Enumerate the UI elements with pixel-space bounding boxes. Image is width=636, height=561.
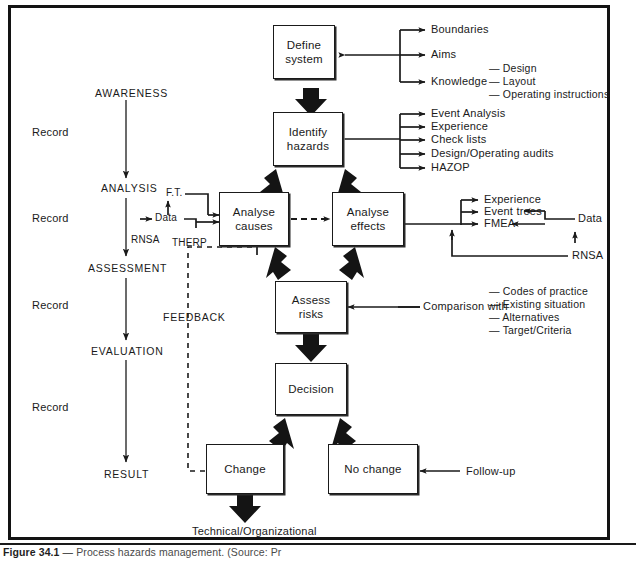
input-experience: Experience (431, 120, 488, 133)
node-analyse-causes[interactable]: Analyse causes (219, 192, 289, 246)
input-ft: F.T. (166, 187, 182, 199)
node-identify-hazards[interactable]: Identify hazards (273, 112, 343, 166)
input-fmea: FMEA (484, 217, 515, 230)
node-no-change[interactable]: No change (328, 444, 418, 494)
figure-caption-dash: — (63, 546, 74, 558)
block-arrow-assess-to-decision (295, 334, 327, 362)
node-analyse-effects[interactable]: Analyse effects (332, 192, 404, 246)
record-label-2: Record (32, 212, 69, 225)
input-check-lists: Check lists (431, 133, 486, 146)
caption-rule (0, 543, 636, 545)
figure-caption-text: Process hazards management. (Source: Pr (76, 546, 281, 558)
stage-analysis: ANALYSIS (101, 182, 158, 195)
comparison-item-target-criteria: — Target/Criteria (489, 324, 572, 337)
input-design-operating-audits: Design/Operating audits (431, 147, 554, 160)
input-event-analysis: Event Analysis (431, 107, 505, 120)
node-analyse-causes-label: Analyse causes (233, 205, 275, 234)
stage-result: RESULT (104, 468, 149, 481)
define-system-input-bracket (345, 30, 425, 82)
block-arrow-causes-to-assess (266, 247, 291, 280)
outcome-technical-organizational: Technical/Organizational (192, 525, 317, 538)
node-change[interactable]: Change (206, 444, 284, 494)
record-label-4: Record (32, 401, 69, 414)
input-boundaries: Boundaries (431, 23, 489, 36)
feedback-dashed-loop (188, 247, 257, 471)
input-hazop: HAZOP (431, 161, 470, 174)
knowledge-sub-design: — Design (489, 62, 537, 75)
record-label-3: Record (32, 299, 69, 312)
knowledge-sub-layout: — Layout (489, 75, 536, 88)
identify-hazards-input-bracket (345, 114, 425, 168)
comparison-item-alternatives: — Alternatives (489, 311, 560, 324)
follow-up-label: Follow-up (466, 465, 516, 478)
block-arrow-effects-to-assess (339, 247, 364, 280)
input-knowledge: Knowledge (431, 75, 487, 88)
node-analyse-effects-label: Analyse effects (347, 205, 389, 234)
input-therp: THERP (172, 237, 207, 249)
feedback-label: FEEDBACK (163, 311, 226, 324)
input-data-effects: Data (578, 212, 602, 225)
node-decision[interactable]: Decision (275, 363, 347, 415)
input-rnsa-effects: RNSA (572, 249, 603, 262)
stage-evaluation: EVALUATION (91, 345, 163, 358)
record-label-1: Record (32, 126, 69, 139)
figure-root: Define system Identify hazards Analyse c… (0, 0, 636, 561)
figure-caption-number: Figure 34.1 (3, 546, 60, 558)
stage-awareness: AWARENESS (95, 87, 168, 100)
node-no-change-label: No change (344, 462, 401, 476)
block-arrow-change-to-outcome (229, 495, 261, 523)
input-data-causes: Data (155, 212, 177, 224)
node-define-system-label: Define system (285, 38, 323, 67)
node-change-label: Change (224, 462, 265, 476)
node-identify-hazards-label: Identify hazards (287, 125, 329, 154)
input-aims: Aims (431, 48, 456, 61)
comparison-item-existing: — Existing situation (489, 298, 585, 311)
stage-assessment: ASSESSMENT (88, 262, 167, 275)
figure-caption: Figure 34.1 — Process hazards management… (3, 546, 633, 558)
input-rnsa-causes: RNSA (131, 234, 160, 246)
node-decision-label: Decision (288, 382, 334, 396)
node-assess-risks-label: Assess risks (292, 293, 330, 322)
node-assess-risks[interactable]: Assess risks (275, 281, 347, 333)
node-define-system[interactable]: Define system (273, 25, 335, 79)
comparison-item-codes: — Codes of practice (489, 285, 588, 298)
knowledge-sub-operating-instructions: — Operating instructions (489, 88, 609, 101)
